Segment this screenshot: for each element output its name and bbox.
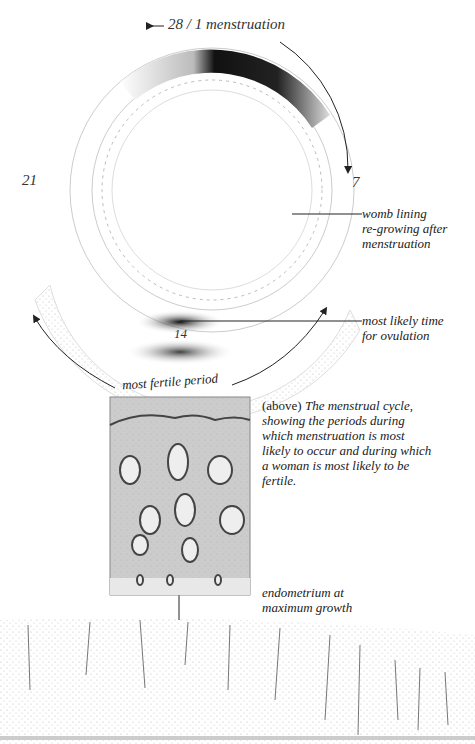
cycle-diagram bbox=[0, 0, 475, 744]
womb-lining bbox=[102, 80, 322, 300]
endometrium-strip bbox=[0, 618, 475, 744]
womb-lining-label: womb lining re-growing after menstruatio… bbox=[362, 206, 447, 251]
label-day-21: 21 bbox=[22, 172, 37, 189]
ovulation-label: most likely time for ovulation bbox=[362, 313, 444, 343]
label-day-14: 14 bbox=[174, 326, 187, 342]
caption-lead: (above) bbox=[262, 398, 302, 413]
endometrium-label: endometrium at maximum growth bbox=[262, 585, 352, 615]
figure-caption: (above) The menstrual cycle, showing the… bbox=[262, 398, 432, 488]
outer-ring bbox=[70, 48, 354, 332]
label-day-7: 7 bbox=[352, 174, 360, 191]
label-day-28-1: 28 / 1 menstruation bbox=[168, 16, 285, 33]
